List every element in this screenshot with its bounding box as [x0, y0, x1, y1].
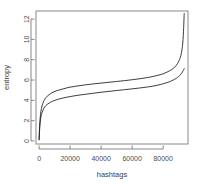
x-tick-label: 0: [37, 155, 41, 162]
y-tick-label: 10: [24, 35, 31, 43]
x-axis-title: hashtags: [97, 170, 128, 179]
y-axis-title: entropy: [2, 65, 11, 90]
plot-canvas: 024681012 020000400006000080000 hashtags…: [0, 0, 200, 190]
x-tick-label: 60000: [122, 155, 142, 162]
y-tick-label: 6: [24, 78, 31, 82]
y-tick-label: 2: [24, 119, 31, 123]
y-tick-label: 8: [24, 58, 31, 62]
y-tick-label: 4: [24, 98, 31, 102]
chart-background: [0, 0, 200, 190]
entropy-vs-hashtags-chart: 024681012 020000400006000080000 hashtags…: [0, 0, 200, 190]
y-tick-label: 0: [24, 139, 31, 143]
y-tick-label: 12: [24, 15, 31, 23]
x-tick-label: 40000: [91, 155, 111, 162]
x-tick-label: 20000: [60, 155, 80, 162]
x-tick-label: 80000: [153, 155, 173, 162]
